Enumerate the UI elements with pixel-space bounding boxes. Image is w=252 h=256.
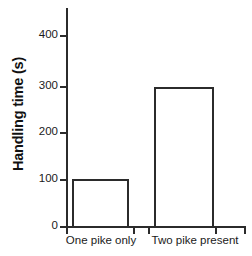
y-axis-title: Handling time (s) bbox=[6, 0, 30, 228]
x-category-label-1: Two pike present bbox=[142, 235, 248, 247]
y-tick-300 bbox=[60, 86, 67, 88]
y-tick-label-300: 300 bbox=[39, 80, 58, 92]
y-tick-label-200: 200 bbox=[39, 126, 58, 138]
x-tick-cat1-right bbox=[215, 226, 217, 234]
bar-chart: Handling time (s) 400 300 200 100 0 One … bbox=[0, 0, 252, 256]
y-axis-line bbox=[66, 8, 68, 228]
x-tick-right-edge bbox=[244, 226, 246, 234]
y-axis-title-text: Handling time (s) bbox=[10, 57, 26, 171]
bar-one-pike-only bbox=[72, 179, 129, 228]
x-category-label-0: One pike only bbox=[60, 235, 142, 247]
y-tick-label-0: 0 bbox=[52, 220, 58, 232]
y-tick-200 bbox=[60, 132, 67, 134]
x-tick-cat1-left bbox=[148, 226, 150, 234]
y-tick-label-400: 400 bbox=[39, 29, 58, 41]
y-tick-label-100: 100 bbox=[39, 173, 58, 185]
x-tick-cat0-right bbox=[133, 226, 135, 234]
y-tick-400 bbox=[60, 35, 67, 37]
bar-two-pike-present bbox=[154, 87, 214, 228]
x-tick-left-edge bbox=[66, 226, 68, 234]
y-tick-100 bbox=[60, 179, 67, 181]
